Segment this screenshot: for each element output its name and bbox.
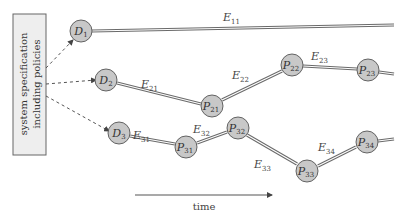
edge-label-e23: E23: [310, 50, 328, 65]
arrow-to-d2: [46, 80, 96, 84]
edge-label-e22: E22: [231, 69, 249, 84]
node-p23: P23: [357, 59, 379, 81]
node-p21: P21: [201, 95, 223, 117]
edge-label-e21: E21: [140, 78, 158, 93]
arrow-to-d1: [46, 40, 73, 68]
node-d1: D1: [70, 20, 92, 42]
time-label: time: [193, 201, 216, 212]
edge-labels: E11 E21 E22 E23 E31 E32 E33 E34: [132, 11, 335, 173]
node-d3: D3: [108, 122, 130, 144]
edge-label-e31: E31: [132, 129, 150, 144]
process-diagram: system specification including policies: [0, 0, 406, 219]
spec-line-2: including policies: [31, 39, 42, 128]
edge-label-e32: E32: [192, 123, 210, 138]
node-p31: P31: [175, 136, 197, 158]
edge-label-e11: E11: [222, 11, 240, 26]
node-d2: D2: [95, 69, 117, 91]
edge-label-e33: E33: [253, 158, 271, 173]
spec-line-1: system specification: [18, 32, 29, 135]
node-p34: P34: [356, 131, 378, 153]
edges: [92, 25, 394, 166]
node-p32: P32: [227, 117, 249, 139]
system-specification-box: system specification including policies: [13, 14, 46, 155]
node-p33: P33: [296, 160, 318, 182]
time-axis: time: [135, 195, 272, 212]
arrow-to-d3: [46, 96, 109, 131]
edge-label-e34: E34: [317, 141, 335, 156]
node-p22: P22: [281, 54, 303, 76]
